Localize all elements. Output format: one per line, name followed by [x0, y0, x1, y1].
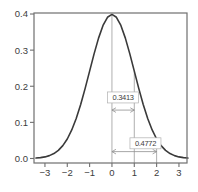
y-tick-label: 0.0: [15, 153, 28, 164]
x-tick-label: 2: [154, 167, 159, 178]
plot-frame-group: [34, 13, 187, 163]
annotation-0.4772: 0.4772: [112, 138, 161, 154]
y-axis-ticks-group: 0.00.10.20.30.4: [15, 8, 34, 163]
x-tick-label: 3: [176, 167, 181, 178]
y-tick-label: 0.2: [15, 81, 28, 92]
annotation-label: 0.3413: [113, 93, 134, 102]
y-tick-label: 0.3: [15, 45, 28, 56]
y-tick-label: 0.1: [15, 117, 28, 128]
normal-distribution-figure: −3−2−10123 0.00.10.20.30.4 0.34130.4772: [0, 0, 198, 192]
x-tick-label: −2: [62, 167, 73, 178]
plot-frame: [34, 13, 187, 163]
x-tick-label: −1: [84, 167, 95, 178]
x-tick-label: 1: [132, 167, 137, 178]
x-tick-label: −3: [40, 167, 51, 178]
annotation-label: 0.4772: [135, 139, 156, 148]
x-axis-ticks-group: −3−2−10123: [40, 163, 182, 178]
chart-svg: −3−2−10123 0.00.10.20.30.4 0.34130.4772: [0, 0, 198, 192]
x-tick-label: 0: [109, 167, 114, 178]
y-tick-label: 0.4: [15, 8, 28, 19]
